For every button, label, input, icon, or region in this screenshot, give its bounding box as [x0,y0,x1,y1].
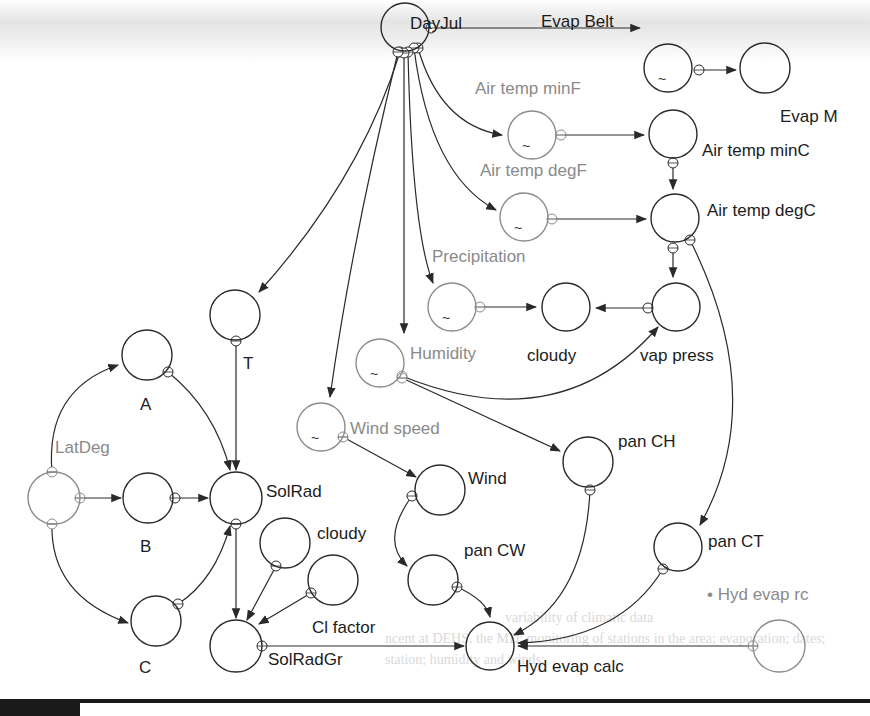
node-label: pan CW [464,541,525,560]
node-air-temp-degc[interactable]: Air temp degC [651,194,816,242]
node-label: Evap Belt [541,12,614,31]
connector-cloudy_low-to-solradgr[interactable] [247,566,276,620]
converter-circle-icon[interactable] [542,283,590,331]
node-t[interactable]: T [210,290,260,373]
stella-model-diagram: variability of climatic datancent at DEH… [0,0,870,716]
node-vap-press[interactable]: vap press [640,283,714,365]
graphical-function-tilde-icon: ~ [311,430,319,446]
node-label: DayJul [410,14,462,33]
node-label: Humidity [410,344,477,363]
node-label: C [139,658,151,677]
node-label: pan CH [618,432,676,451]
node-air-temp-degf[interactable]: ~Air temp degF [480,161,587,241]
connector-pan_cw-to-hyd_evap_calc[interactable] [457,587,490,617]
node-label: cloudy [317,524,367,543]
converter-circle-icon[interactable] [508,111,556,159]
converter-circle-icon[interactable] [28,472,80,524]
node-cloudy-top[interactable]: cloudy [527,283,590,365]
graphical-function-tilde-icon: ~ [514,220,522,236]
graphical-function-tilde-icon: ~ [522,138,530,154]
node-label: Air temp degF [480,161,587,180]
node-label: Wind speed [350,419,440,438]
node-precipitation[interactable]: ~Precipitation [428,247,526,331]
ghost-text: variability of climatic data [505,610,654,625]
node-wind[interactable]: Wind [415,465,507,515]
node-humidity[interactable]: ~Humidity [356,339,477,387]
node-b[interactable]: B [123,473,173,556]
node-a[interactable]: A [122,330,172,414]
converter-circle-icon[interactable] [308,555,358,605]
node-pan-cw[interactable]: pan CW [408,541,525,605]
node-latdeg[interactable]: LatDeg [28,438,110,524]
converter-circle-icon[interactable] [122,330,172,380]
connector-cl_factor-to-solradgr[interactable] [259,593,311,624]
converter-circle-icon[interactable] [210,472,262,524]
node-label: pan CT [708,532,764,551]
node-pan-ct[interactable]: pan CT [654,523,764,571]
converter-circle-icon[interactable] [644,44,692,92]
node-label: Hyd evap calc [517,657,624,676]
converter-circle-icon[interactable] [649,110,697,158]
node-label: LatDeg [55,438,110,457]
node-label: B [140,537,151,556]
converter-circle-icon[interactable] [500,193,548,241]
node-label: Evap M [780,107,838,126]
converter-circle-icon[interactable] [210,290,260,340]
connector-c-to-solrad[interactable] [178,526,230,604]
converter-circle-icon[interactable] [753,620,805,672]
converter-circle-icon[interactable] [428,283,476,331]
page-tab-block [0,699,80,716]
page-strip [80,703,870,716]
converter-circle-icon[interactable] [131,596,181,646]
converter-circle-icon[interactable] [740,43,790,93]
converter-circle-icon[interactable] [654,523,702,571]
connector-layer [47,23,758,651]
node-label: Air temp minC [702,141,810,160]
converter-circle-icon[interactable] [563,437,613,487]
converter-circle-icon[interactable] [297,403,345,451]
converter-circle-icon[interactable] [260,518,310,568]
node-label: Precipitation [432,247,526,266]
node-label: SolRad [266,482,322,501]
node-label: vap press [640,346,714,365]
converter-circle-icon[interactable] [408,555,458,605]
ghost-text: ncent at DEHS, the MD; monitoring of sta… [385,631,826,646]
converter-circle-icon[interactable] [210,620,262,672]
converter-circle-icon[interactable] [651,194,699,242]
connector-wind-to-pan_cw[interactable] [395,496,412,566]
node-dayjul[interactable]: DayJul [381,3,462,51]
graphical-function-tilde-icon: ~ [442,310,450,326]
connector-wind_speed-to-wind[interactable] [343,437,416,477]
node-pan-ch[interactable]: pan CH [563,432,676,487]
node-label: Wind [468,469,507,488]
node-hyd-evap-rc[interactable]: • Hyd evap rc [707,585,809,672]
connector-air_temp_degc-to-pan_ct[interactable] [690,240,733,525]
node-label: • Hyd evap rc [707,585,809,604]
node-evap-m[interactable]: Evap M [740,43,838,126]
converter-circle-icon[interactable] [123,473,173,523]
node-label: A [140,395,152,414]
node-label: SolRadGr [268,650,343,669]
node-label: Cl factor [312,618,376,637]
node-label: cloudy [527,346,577,365]
node-wind-speed[interactable]: ~Wind speed [297,403,440,451]
node-c[interactable]: C [131,596,181,677]
connector-a-to-solrad[interactable] [168,372,230,470]
node-label: Air temp degC [707,201,816,220]
node-label: T [243,354,253,373]
node-label: Air temp minF [475,79,581,98]
converter-circle-icon[interactable] [415,465,465,515]
graphical-function-tilde-icon: ~ [370,366,378,382]
connector-latdeg-to-c[interactable] [52,524,128,623]
connector-humidity-to-pan_ch[interactable] [402,378,560,451]
node-cl-factor[interactable]: Cl factor [308,555,376,637]
node-air-temp-minf[interactable]: ~Air temp minF [475,79,581,159]
node-solrad[interactable]: SolRad [210,472,322,524]
connector-dayjul-to-t[interactable] [259,52,400,292]
graphical-function-tilde-icon: ~ [658,71,666,87]
node-cloudy-low[interactable]: cloudy [260,518,367,568]
converter-circle-icon[interactable] [652,283,700,331]
converter-circle-icon[interactable] [356,339,404,387]
node-layer: DayJul~Evap BeltEvap M~Air temp minFAir … [28,3,838,677]
